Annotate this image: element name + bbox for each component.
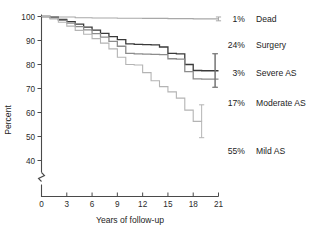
series-line-moderate-as	[42, 17, 202, 122]
y-tick-label: 50	[26, 133, 36, 142]
annotation-percent-moderate-as: 17%	[228, 98, 246, 108]
x-tick-label: 3	[65, 200, 70, 209]
annotation-label-moderate-as: Moderate AS	[256, 98, 306, 108]
chart-annotations: 1%Dead24%Surgery3%Severe AS17%Moderate A…	[228, 14, 306, 156]
y-tick-label: 90	[26, 37, 36, 46]
x-tick-label: 21	[214, 200, 224, 209]
chart-series-lines	[42, 17, 219, 122]
chart-error-bars	[199, 17, 221, 138]
chart-axes	[39, 15, 219, 197]
annotation-percent-severe-as: 3%	[233, 68, 246, 78]
annotation-label-surgery: Surgery	[256, 40, 287, 50]
x-tick-label: 15	[163, 200, 173, 209]
y-tick-label: 70	[26, 85, 36, 94]
x-tick-label: 6	[90, 200, 95, 209]
y-tick-label: 80	[26, 61, 36, 70]
annotation-label-severe-as: Severe AS	[256, 68, 297, 78]
annotation-percent-mild-as: 55%	[228, 146, 246, 156]
y-tick-label: 40	[26, 157, 36, 166]
x-axis-title: Years of follow-up	[96, 215, 164, 225]
survival-chart: 405060708090100 036912151821 Percent Yea…	[0, 0, 327, 232]
annotation-label-mild-as: Mild AS	[256, 146, 285, 156]
y-tick-label: 100	[21, 13, 35, 22]
x-axis-ticks: 036912151821	[39, 193, 223, 209]
x-axis-line	[42, 185, 219, 197]
x-tick-label: 12	[138, 200, 148, 209]
y-axis-ticks: 405060708090100	[21, 13, 41, 166]
x-tick-label: 9	[115, 200, 120, 209]
annotation-percent-dead: 1%	[233, 14, 246, 24]
x-tick-label: 0	[39, 200, 44, 209]
series-line-dead	[42, 17, 219, 19]
annotation-percent-surgery: 24%	[228, 40, 246, 50]
y-axis-break-marker	[39, 173, 45, 182]
y-tick-label: 60	[26, 109, 36, 118]
series-line-surgery	[42, 17, 219, 71]
x-tick-label: 18	[189, 200, 199, 209]
annotation-label-dead: Dead	[256, 14, 277, 24]
y-axis-title: Percent	[3, 105, 13, 135]
